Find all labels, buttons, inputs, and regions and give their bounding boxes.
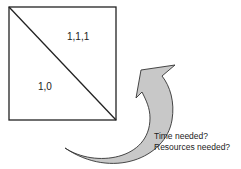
region-label-lower: 1,0 xyxy=(38,81,52,92)
region-label-upper: 1,1,1 xyxy=(67,31,89,42)
question-time: Time needed? xyxy=(154,131,208,142)
question-resources: Resources needed? xyxy=(154,142,230,153)
